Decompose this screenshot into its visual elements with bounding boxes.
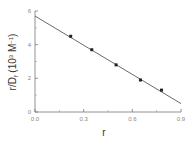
y-tick-label: 6 — [28, 8, 32, 14]
y-tick-label: 4 — [28, 42, 32, 48]
y-ticks: 0246 — [28, 8, 38, 115]
y-tick-label: 2 — [28, 75, 32, 81]
data-point — [139, 79, 142, 82]
x-tick-label: 0.9 — [177, 116, 186, 122]
fit-line — [35, 16, 181, 104]
x-axis-label: r — [102, 127, 106, 138]
data-point — [160, 89, 163, 92]
data-point — [90, 48, 93, 51]
data-point — [115, 63, 118, 66]
scatchard-plot: 0246 0.00.30.60.9 r r/Df (103 M−1) — [0, 0, 194, 143]
axes — [35, 11, 181, 112]
x-tick-label: 0.0 — [31, 116, 40, 122]
regression-line — [35, 16, 181, 104]
y-tick-label: 0 — [28, 109, 32, 115]
x-tick-label: 0.6 — [128, 116, 137, 122]
data-points — [69, 35, 163, 92]
data-point — [69, 35, 72, 38]
x-tick-label: 0.3 — [79, 116, 88, 122]
x-ticks: 0.00.30.60.9 — [31, 109, 186, 122]
y-axis-label: r/Df (103 M−1) — [7, 34, 19, 91]
